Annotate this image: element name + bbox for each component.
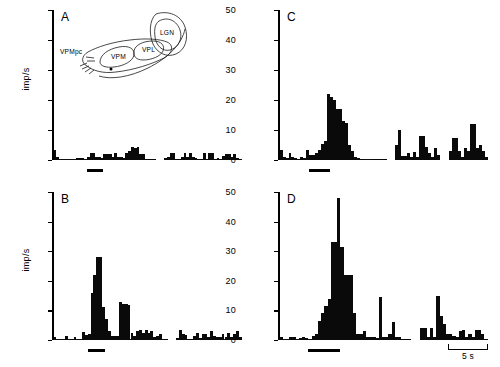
scale-bar-label: 5 s: [448, 351, 488, 361]
y-tick-b-10: [48, 310, 52, 311]
histogram-bar: [484, 339, 487, 340]
histogram-bar: [239, 337, 242, 340]
histogram-bar: [54, 337, 57, 340]
histogram-bar: [74, 337, 77, 340]
histogram-bar: [81, 158, 84, 160]
thalamus-inset: LGN VPL VPM VPMpc: [64, 6, 204, 96]
trace-gap: [156, 157, 164, 160]
y-tick-b-30: [48, 251, 52, 252]
trace-gap: [168, 337, 177, 340]
y-tick-c-40: [274, 40, 278, 41]
histogram-bar: [360, 159, 363, 160]
trace-gap: [411, 337, 421, 340]
y-tick-d-50: [274, 192, 278, 193]
y-tick-c-0: [274, 160, 278, 161]
y-axis-title-b: imp/s: [21, 240, 31, 280]
stimulus-bar-a: [87, 169, 104, 172]
y-tick-a-40: [48, 40, 52, 41]
y-axis-title-a: imp/s: [21, 59, 31, 99]
panel-b: 01020304050 imp/s B: [52, 192, 242, 340]
inset-label-vpm: VPM: [111, 53, 126, 60]
y-tick-b-0: [48, 340, 52, 341]
inset-label-lgn: LGN: [160, 29, 174, 36]
y-tick-d-20: [274, 281, 278, 282]
y-tick-d-0: [274, 340, 278, 341]
scale-bar-line: [448, 344, 488, 350]
stimulus-bar-b: [88, 349, 105, 352]
recording-site-marker: [110, 68, 113, 71]
y-tick-b-20: [48, 281, 52, 282]
y-tick-a-20: [48, 100, 52, 101]
histogram-bar: [379, 297, 382, 340]
histogram-c: [280, 10, 488, 160]
histogram-bar: [56, 157, 59, 160]
histogram-bar: [485, 157, 488, 160]
time-scale-bar: 5 s: [448, 344, 488, 361]
inset-label-vpl: VPL: [142, 46, 155, 53]
figure-canvas: 01020304050 imp/s A: [0, 0, 500, 367]
thalamus-outline-svg: [64, 6, 204, 96]
stimulus-bar-c: [309, 169, 330, 172]
y-tick-c-20: [274, 100, 278, 101]
y-tick-a-10: [48, 130, 52, 131]
y-tick-a-50: [48, 10, 52, 11]
y-tick-d-10: [274, 310, 278, 311]
trace-gap: [387, 157, 396, 160]
histogram-bar: [292, 337, 295, 340]
y-tick-c-50: [274, 10, 278, 11]
histogram-bar: [239, 159, 242, 160]
trace-gap: [440, 157, 449, 160]
histogram-bar: [280, 337, 283, 340]
panel-d: D: [278, 192, 488, 340]
y-tick-b-40: [48, 222, 52, 223]
y-tick-d-30: [274, 251, 278, 252]
y-tick-b-50: [48, 192, 52, 193]
panel-c: C: [278, 10, 488, 160]
y-tick-c-30: [274, 70, 278, 71]
y-tick-a-0: [48, 160, 52, 161]
stimulus-bar-d: [308, 349, 340, 352]
y-tick-c-10: [274, 130, 278, 131]
histogram-b: [54, 192, 242, 340]
histogram-d: [280, 192, 488, 340]
histogram-bar: [65, 336, 68, 340]
y-tick-d-40: [274, 222, 278, 223]
y-tick-a-30: [48, 70, 52, 71]
inset-label-vpmpc: VPMpc: [60, 48, 82, 55]
